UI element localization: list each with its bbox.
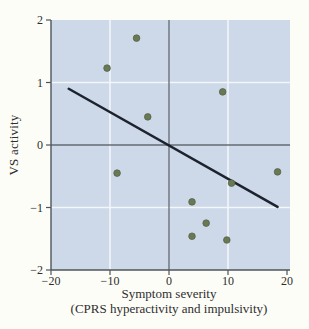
scatter-point (274, 169, 281, 176)
scatter-point (189, 233, 196, 240)
scatter-point (133, 35, 140, 42)
x-tick-label: 20 (281, 274, 293, 288)
y-tick-label: 2 (37, 13, 43, 27)
scatter-point (224, 237, 231, 244)
x-tick-label: −20 (42, 274, 61, 288)
x-axis-title: Symptom severity (122, 286, 217, 302)
y-tick-label: 0 (37, 138, 43, 152)
scatter-point (189, 199, 196, 206)
x-axis-subtitle: (CPRS hyperactivity and impulsivity) (71, 301, 268, 317)
x-tick-label: −10 (101, 274, 120, 288)
scatter-point (228, 180, 235, 187)
y-tick-label: 1 (37, 76, 43, 90)
scatter-plot-figure: −2−1012−20−1001020 VS activity Symptom s… (0, 0, 309, 329)
y-axis-label: VS activity (6, 114, 22, 175)
y-tick-label: −1 (30, 201, 43, 215)
scatter-point (144, 114, 151, 121)
scatter-point (104, 65, 111, 72)
scatter-point (203, 220, 210, 227)
scatter-point (219, 89, 226, 96)
x-tick-label: 10 (222, 274, 234, 288)
scatter-point (114, 170, 121, 177)
scatter-chart-canvas: −2−1012−20−1001020 (0, 0, 309, 329)
